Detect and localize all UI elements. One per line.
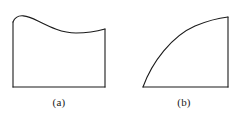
panel-b-caption: (b) — [130, 96, 238, 109]
panel-b-shape — [143, 17, 228, 87]
panel-a-top-curve — [13, 16, 105, 33]
panel-a-shape — [13, 16, 105, 87]
panel-a-caption: (a) — [0, 96, 118, 109]
panel-b-top-curve — [143, 17, 228, 87]
figure-container: (a) (b) — [0, 0, 240, 124]
